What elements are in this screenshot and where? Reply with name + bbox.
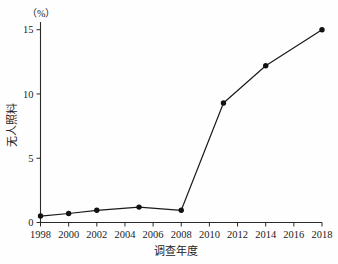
y-axis-tick-marks	[37, 30, 41, 223]
series-line-wurenzhaoliao	[41, 30, 323, 216]
x-axis-tick-marks	[41, 223, 323, 227]
data-point-marker	[94, 208, 99, 213]
x-tick-label: 2008	[171, 229, 192, 240]
y-tick-label: 5	[28, 153, 33, 164]
y-axis-tick-labels: 051015	[23, 24, 34, 228]
x-tick-label: 2018	[312, 229, 333, 240]
y-axis-title: 无人照料	[5, 103, 18, 147]
x-tick-label: 2004	[114, 229, 136, 240]
line-chart: 051015 199820002002200420062008201020122…	[0, 0, 338, 264]
data-point-marker	[179, 208, 184, 213]
x-tick-label: 1998	[30, 229, 51, 240]
y-tick-label: 0	[28, 217, 33, 228]
x-tick-label: 2010	[199, 229, 220, 240]
y-axis-unit-label: （%）	[27, 8, 55, 19]
x-tick-label: 2014	[255, 229, 277, 240]
x-tick-label: 2002	[86, 229, 107, 240]
x-tick-label: 2000	[58, 229, 79, 240]
data-point-marker	[263, 63, 268, 68]
data-point-marker	[66, 211, 71, 216]
axis-lines	[41, 22, 323, 223]
x-axis-title: 调查年度	[154, 244, 198, 257]
data-point-marker	[136, 204, 141, 209]
y-tick-label: 15	[23, 24, 34, 35]
chart-screenshot: 051015 199820002002200420062008201020122…	[0, 0, 338, 264]
data-point-marker	[319, 27, 324, 32]
x-tick-label: 2012	[227, 229, 248, 240]
x-axis-tick-labels: 1998200020022004200620082010201220142016…	[30, 229, 333, 240]
x-tick-label: 2016	[283, 229, 304, 240]
data-point-marker	[221, 100, 226, 105]
x-tick-label: 2006	[143, 229, 164, 240]
data-point-marker	[38, 213, 43, 218]
y-tick-label: 10	[23, 89, 34, 100]
chart-axes	[41, 22, 323, 223]
